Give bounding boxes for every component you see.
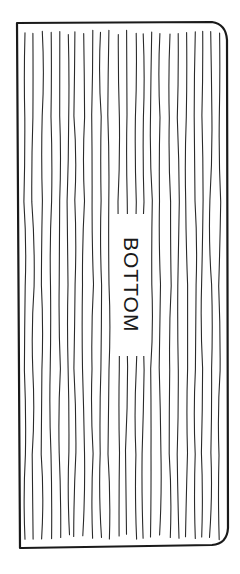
grain-line	[218, 33, 220, 539]
grain-line	[59, 32, 61, 538]
grain-line	[108, 30, 110, 539]
grain-line	[74, 32, 76, 537]
grain-line	[32, 33, 35, 539]
grain-line	[194, 32, 196, 539]
grain-line	[82, 34, 85, 536]
panel-label-box: BOTTOM	[116, 214, 146, 356]
grain-line	[177, 34, 179, 539]
grain-line	[159, 34, 161, 535]
grain-line	[91, 30, 93, 538]
grain-line	[185, 33, 187, 537]
grain-line	[209, 32, 212, 538]
panel-label: BOTTOM	[119, 237, 143, 332]
grain-line	[67, 35, 69, 535]
grain-line	[50, 32, 52, 538]
grain-line	[41, 31, 43, 539]
grain-line	[100, 32, 102, 537]
grain-line	[150, 32, 152, 537]
grain-line	[169, 34, 171, 538]
grain-line	[201, 31, 203, 537]
grain-line	[24, 33, 26, 540]
